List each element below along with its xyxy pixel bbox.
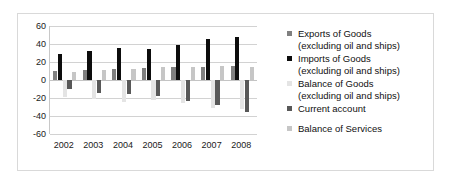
- y-axis-tick-label: -40: [33, 112, 46, 121]
- bar: [63, 80, 67, 97]
- bar: [206, 39, 210, 80]
- legend-label-secondary: (excluding oil and ships): [298, 90, 432, 102]
- chart-legend: Exports of Goods(excluding oil and ships…: [286, 28, 432, 168]
- bar-group: [139, 26, 169, 134]
- x-axis-tick-label: 2008: [226, 140, 256, 150]
- legend-swatch-icon: [287, 126, 292, 131]
- legend-label: Current account: [298, 103, 366, 114]
- x-axis-tick-label: 2003: [79, 140, 109, 150]
- legend-label: Balance of Goods: [298, 78, 374, 89]
- legend-swatch-icon: [287, 106, 292, 111]
- gridline: [50, 134, 257, 135]
- bar: [231, 66, 235, 80]
- bar: [176, 45, 180, 80]
- x-axis-tick-label: 2002: [49, 140, 79, 150]
- legend-label: Balance of Services: [298, 123, 382, 134]
- bar-group: [227, 26, 257, 134]
- legend-item[interactable]: Balance of Services: [286, 123, 432, 135]
- legend-item[interactable]: Balance of Goods(excluding oil and ships…: [286, 78, 432, 101]
- y-axis-tick-label: -20: [33, 94, 46, 103]
- bar: [102, 70, 106, 80]
- bar: [112, 69, 116, 80]
- plot-wrapper: 6040200-20-40-60 20022003200420052006200…: [18, 14, 278, 170]
- y-axis-tick-label: -60: [33, 130, 46, 139]
- bar-group: [168, 26, 198, 134]
- y-axis-tick-label: 40: [36, 40, 46, 49]
- y-axis: 6040200-20-40-60: [18, 14, 48, 170]
- bars-layer: [50, 26, 257, 134]
- legend-item[interactable]: Imports of Goods(excluding oil and ships…: [286, 53, 432, 76]
- bar: [161, 67, 165, 80]
- bar: [117, 48, 121, 80]
- legend-swatch-icon: [287, 56, 292, 61]
- bar: [215, 80, 219, 105]
- bar-group: [50, 26, 80, 134]
- bar: [201, 67, 205, 81]
- bar: [97, 80, 101, 93]
- y-axis-tick-label: 60: [36, 22, 46, 31]
- bar: [250, 67, 254, 81]
- bar: [181, 80, 185, 103]
- x-axis-tick-label: 2004: [108, 140, 138, 150]
- chart-container: 6040200-20-40-60 20022003200420052006200…: [17, 13, 434, 171]
- bar: [72, 72, 76, 80]
- bar: [83, 70, 87, 80]
- bar: [142, 68, 146, 80]
- legend-item[interactable]: Current account: [286, 103, 432, 115]
- y-axis-tick-label: 20: [36, 58, 46, 67]
- bar: [240, 80, 244, 109]
- bar: [58, 54, 62, 80]
- bar: [53, 71, 57, 80]
- bar: [220, 66, 224, 80]
- bar-group: [80, 26, 110, 134]
- plot-area: [49, 26, 257, 134]
- bar: [122, 80, 126, 102]
- bar: [235, 37, 239, 80]
- bar: [147, 49, 151, 81]
- bar: [211, 80, 215, 108]
- x-axis-tick-label: 2006: [167, 140, 197, 150]
- bar: [92, 80, 96, 99]
- bar: [127, 80, 131, 94]
- bar: [245, 80, 249, 112]
- bar: [151, 80, 155, 100]
- x-axis-tick-label: 2007: [197, 140, 227, 150]
- y-axis-tick-label: 0: [41, 76, 46, 85]
- bar-group: [109, 26, 139, 134]
- bar: [131, 69, 135, 80]
- bar: [186, 80, 190, 101]
- bar: [67, 80, 71, 89]
- legend-label-secondary: (excluding oil and ships): [298, 65, 432, 77]
- legend-label: Exports of Goods: [298, 28, 371, 39]
- bar: [191, 67, 195, 81]
- legend-label-secondary: (excluding oil and ships): [298, 40, 432, 52]
- x-axis-tick-label: 2005: [138, 140, 168, 150]
- bar: [87, 51, 91, 80]
- legend-swatch-icon: [287, 31, 292, 36]
- legend-label: Imports of Goods: [298, 53, 371, 64]
- bar: [156, 80, 160, 96]
- x-axis: 2002200320042005200620072008: [49, 140, 256, 154]
- legend-item[interactable]: Exports of Goods(excluding oil and ships…: [286, 28, 432, 51]
- bar: [171, 67, 175, 80]
- legend-swatch-icon: [287, 81, 292, 86]
- bar-group: [198, 26, 228, 134]
